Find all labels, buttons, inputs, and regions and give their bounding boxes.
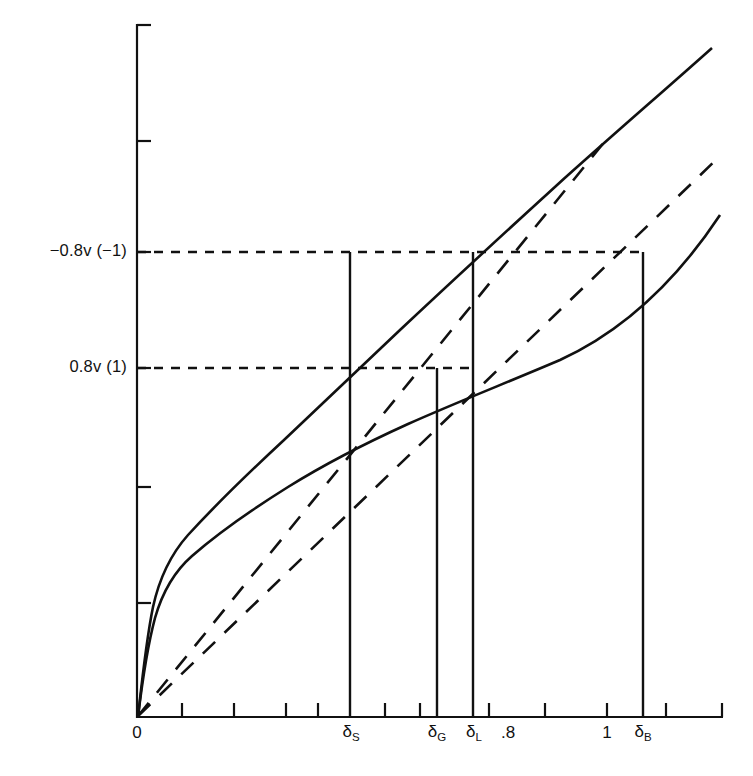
upper-dashed-chord xyxy=(138,135,610,716)
x-axis-label-point-eight: .8 xyxy=(491,723,525,743)
delta-g-symbol: δ xyxy=(428,722,437,741)
delta-l-symbol: δ xyxy=(466,722,475,741)
delta-b-subscript: B xyxy=(644,731,652,743)
delta-g-subscript: G xyxy=(437,731,446,743)
x-axis-label-one: 1 xyxy=(592,723,622,743)
delta-l-subscript: L xyxy=(476,731,482,743)
lower-concave-curve xyxy=(138,215,720,717)
delta-s-subscript: S xyxy=(352,731,360,743)
y-axis-label-lower: 0.8v (1) xyxy=(0,357,127,376)
lower-dashed-chord-visible xyxy=(138,158,718,716)
y-axis-label-upper: −0.8v (−1) xyxy=(0,241,127,260)
x-axis-label-delta-b: δB xyxy=(622,722,664,743)
figure-canvas: −0.8v (−1) 0.8v (1) 0 δS δG δL .8 1 δB xyxy=(0,0,753,776)
x-axis-label-delta-s: δS xyxy=(330,722,372,743)
upper-concave-curve xyxy=(138,48,712,717)
x-axis-label-delta-g: δG xyxy=(416,722,458,743)
x-axis-label-delta-l: δL xyxy=(453,722,495,743)
delta-s-symbol: δ xyxy=(342,722,351,741)
delta-b-symbol: δ xyxy=(634,722,643,741)
x-axis-label-origin: 0 xyxy=(122,723,152,743)
chart-svg xyxy=(0,0,753,776)
